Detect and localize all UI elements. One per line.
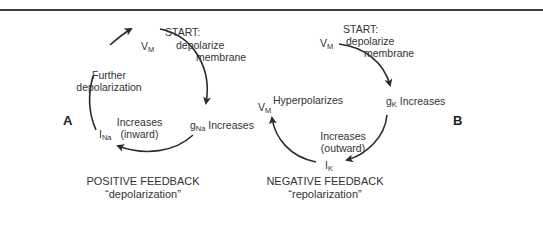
panel-a-caption-title: POSITIVE FEEDBACK (78, 175, 208, 188)
panel-b-start-title: START: (343, 23, 378, 35)
arrow-ik-to-vm (272, 118, 316, 162)
panel-a-node-vm: VM (141, 40, 154, 52)
panel-a-side-line2: depolarization (70, 81, 148, 93)
panel-b-start-line1: depolarize (346, 35, 394, 47)
panel-b-start-line2: membrane (364, 47, 414, 59)
panel-a-start-line2: membrane (196, 51, 246, 63)
panel-a-node-ina: INa (99, 128, 112, 140)
panel-a-side-line1: Further (74, 69, 144, 81)
panel-b-node-vm-top: VM (320, 37, 333, 49)
panel-a-node-gna: gNa Increases (190, 119, 254, 131)
panel-a-inner-line2: (inward) (112, 128, 167, 140)
panel-b-node-vm-left: VM (258, 101, 271, 113)
arrow-to-vm (110, 29, 131, 45)
panel-a-inner-line1: Increases (112, 116, 167, 128)
panel-b-caption-title: NEGATIVE FEEDBACK (260, 175, 390, 188)
panel-b-node-gk: gK Increases (386, 95, 445, 107)
panel-a-start-line1: depolarize (176, 39, 224, 51)
panel-b-label: B (453, 113, 462, 128)
panel-b-inner-line2: (outward) (313, 142, 373, 154)
panel-b-caption-subtitle: “repolarization” (260, 188, 390, 201)
panel-a-label: A (63, 113, 72, 128)
panel-b-left-text: Hyperpolarizes (273, 94, 343, 106)
panel-b-node-ik: IK (325, 159, 333, 171)
panel-b-inner-line1: Increases (313, 130, 373, 142)
panel-a-caption-subtitle: “depolarization” (78, 188, 208, 201)
panel-a-start-title: START: (165, 26, 200, 38)
